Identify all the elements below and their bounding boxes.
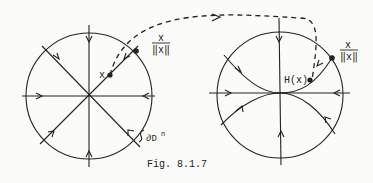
figure-canvas: x x ‖x‖ ∂D n H(x) x ‖x‖ Fig. 8.1.7 — [0, 0, 373, 183]
arrow-icon — [48, 131, 54, 137]
figure-caption: Fig. 8.1.7 — [147, 159, 207, 170]
arrow-icon — [325, 117, 331, 123]
mapping-dashed-curve — [110, 15, 316, 80]
label-x-over-norm-right-num: x — [345, 40, 351, 51]
label-x: x — [99, 70, 105, 81]
upper-left-trajectory — [224, 55, 280, 93]
label-boundary-sup: n — [161, 130, 165, 138]
label-boundary: ∂D — [146, 134, 157, 144]
arrow-icon — [317, 60, 323, 66]
point-x-normalized-right — [329, 55, 335, 61]
lower-left-trajectory — [221, 93, 280, 125]
point-x-normalized — [133, 48, 139, 54]
label-Hx: H(x) — [284, 75, 308, 86]
point-Hx — [307, 77, 312, 82]
right-disk-diagram — [209, 18, 350, 165]
label-x-over-norm-num: x — [158, 33, 164, 44]
arrow-icon — [124, 53, 130, 59]
lower-right-trajectory — [280, 93, 335, 134]
label-x-over-norm-den: ‖x‖ — [152, 45, 170, 56]
label-x-over-norm-right-den: ‖x‖ — [340, 52, 358, 63]
mapping-arrow-icon — [212, 14, 220, 21]
boundary-pointer — [139, 130, 144, 142]
left-disk-diagram — [22, 25, 155, 167]
